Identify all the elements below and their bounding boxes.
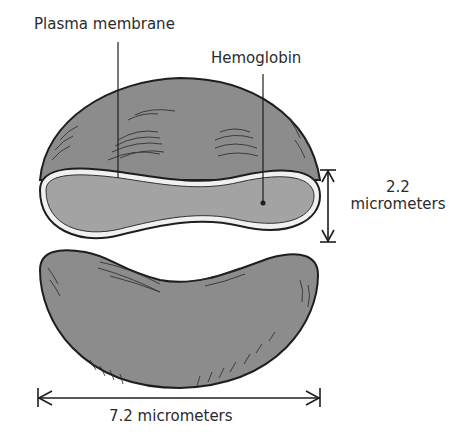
- top-half-dome: [40, 78, 320, 180]
- plasma-membrane-label: Plasma membrane: [34, 16, 175, 33]
- thickness-value: 2.2: [339, 179, 457, 196]
- thickness-unit: micrometers: [339, 196, 457, 213]
- diameter-label: 7.2 micrometers: [109, 408, 233, 425]
- thickness-label: 2.2 micrometers: [339, 179, 457, 213]
- hemoglobin-dot: [261, 201, 266, 206]
- bottom-half: [40, 250, 318, 388]
- diameter-dimension: [38, 388, 320, 407]
- hemoglobin-label: Hemoglobin: [211, 50, 301, 67]
- thickness-dimension: [320, 170, 336, 242]
